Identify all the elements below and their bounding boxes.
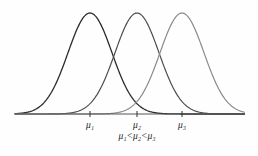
normal-curve-mu3 [15,13,245,114]
tick-label-mu3: μ₃ [178,120,186,130]
normal-curves-figure: μ₁ μ₂ μ₃ μ₁<μ₂<μ₃ [0,0,258,156]
tick-label-mu1: μ₁ [86,120,94,130]
curve-group [15,13,245,114]
normal-curve-mu2 [15,13,245,114]
tick-label-mu2: μ₂ [133,120,141,130]
normal-curve-mu1 [15,13,245,114]
axis-group [15,111,245,117]
inequality-caption: μ₁<μ₂<μ₃ [118,131,155,141]
